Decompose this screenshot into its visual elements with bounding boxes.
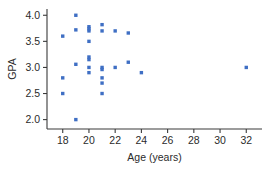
y-tick-label: 2.5 <box>25 87 40 99</box>
plot-canvas: 2.02.53.03.54.0 1820222426283032 Age (ye… <box>0 0 269 175</box>
data-point <box>87 66 90 69</box>
x-tick-label: 26 <box>162 134 174 146</box>
x-axis-ticks: 1820222426283032 <box>57 129 252 146</box>
data-point <box>61 92 64 95</box>
x-tick-label: 30 <box>214 134 226 146</box>
axes <box>47 9 262 129</box>
x-tick-label: 20 <box>83 134 95 146</box>
y-tick-label: 2.0 <box>25 113 40 125</box>
data-point <box>61 76 64 79</box>
data-point <box>100 29 103 32</box>
data-point <box>113 29 116 32</box>
data-point <box>100 68 103 71</box>
data-point <box>87 71 90 74</box>
data-point <box>87 40 90 43</box>
data-point <box>100 76 103 79</box>
data-point <box>100 92 103 95</box>
data-point <box>87 58 90 61</box>
x-tick-label: 32 <box>240 134 252 146</box>
data-point <box>113 66 116 69</box>
x-tick-label: 24 <box>136 134 148 146</box>
x-axis-label: Age (years) <box>127 151 181 163</box>
data-points <box>61 14 248 122</box>
data-point <box>245 66 248 69</box>
scatter-plot-figure: 2.02.53.03.54.0 1820222426283032 Age (ye… <box>0 0 269 175</box>
x-tick-label: 18 <box>57 134 69 146</box>
data-point <box>74 14 77 17</box>
data-point <box>74 63 77 66</box>
data-point <box>100 81 103 84</box>
y-axis-ticks: 2.02.53.03.54.0 <box>25 9 47 125</box>
data-point <box>140 71 143 74</box>
y-tick-label: 3.0 <box>25 61 40 73</box>
data-point <box>87 29 90 32</box>
data-point <box>127 31 130 34</box>
y-tick-label: 4.0 <box>25 9 40 21</box>
y-tick-label: 3.5 <box>25 35 40 47</box>
data-point <box>100 23 103 26</box>
x-tick-label: 28 <box>188 134 200 146</box>
data-point <box>74 118 77 121</box>
x-tick-label: 22 <box>109 134 121 146</box>
data-point <box>74 28 77 31</box>
data-point <box>127 61 130 64</box>
y-axis-label: GPA <box>6 58 18 79</box>
data-point <box>61 34 64 37</box>
